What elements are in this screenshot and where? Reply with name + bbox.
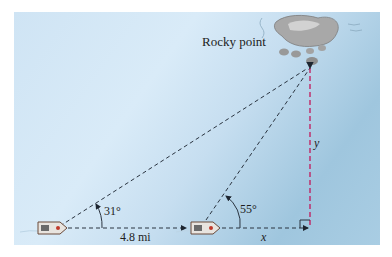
distance-label: 4.8 mi xyxy=(120,230,151,245)
angle-arc-55 xyxy=(226,196,240,228)
rocky-point-label: Rocky point xyxy=(202,34,266,50)
angle-arc-31 xyxy=(96,204,102,228)
sight-line-first xyxy=(60,68,308,226)
angle-55-label: 55° xyxy=(240,202,257,217)
angle-31-label: 31° xyxy=(104,204,121,219)
boat-first-icon xyxy=(20,222,67,234)
right-angle-marker xyxy=(300,220,310,228)
diagram-canvas xyxy=(0,0,392,257)
y-label: y xyxy=(314,136,319,151)
sight-line-second xyxy=(206,68,310,220)
x-label: x xyxy=(261,230,266,245)
rocky-point-icon xyxy=(260,15,362,65)
